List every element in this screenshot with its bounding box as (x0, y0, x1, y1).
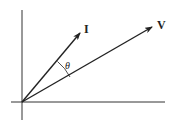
label-theta: θ (65, 60, 70, 71)
label-V: V (157, 18, 166, 32)
phasor-diagram: I V θ (0, 0, 178, 127)
voltage-vector-V (22, 27, 152, 102)
current-vector-I (22, 33, 80, 102)
label-I: I (84, 22, 89, 36)
